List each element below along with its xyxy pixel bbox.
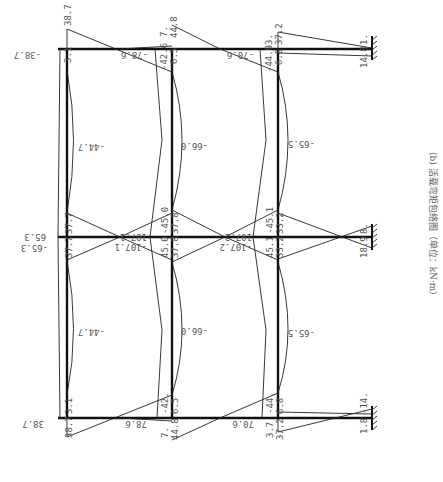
envelope-bottom	[67, 393, 372, 440]
fixed-support-icon	[372, 406, 377, 430]
label: -107.1	[114, 242, 147, 252]
label: 6.8	[275, 398, 285, 414]
moment-envelope-diagram: -38.7 38.7 3.1 -78.6 7. 44.8 -42.6 6.5 -…	[0, 0, 443, 482]
label: 6.8	[274, 49, 284, 65]
label: 8.	[359, 223, 369, 234]
label: 1.8	[359, 418, 369, 434]
label: 18.9	[359, 236, 369, 258]
label: 38.7	[64, 416, 74, 438]
label: -38.7	[14, 50, 41, 60]
label: -44.9	[264, 45, 274, 72]
label: -66.0	[181, 141, 208, 151]
label: 3.1	[64, 398, 74, 414]
fixed-support-icons	[372, 36, 377, 430]
label: -45.1	[265, 207, 275, 234]
label: 37.2	[275, 418, 285, 440]
label: 33.2	[275, 236, 285, 258]
label: -65.5	[288, 328, 315, 338]
label: 38.7	[63, 4, 73, 26]
label: 1.	[359, 34, 369, 45]
label: 65.3	[24, 232, 46, 242]
label: 37.2	[274, 23, 284, 45]
label: 37.7	[64, 212, 74, 234]
label: 107.1	[120, 232, 147, 242]
label: -42.6	[159, 43, 169, 70]
label: 78.6	[125, 419, 147, 429]
fixed-support-icon	[372, 36, 377, 60]
label: 33.2	[275, 212, 285, 234]
label: 6.5	[169, 48, 179, 64]
label: 3.7	[265, 422, 275, 438]
label: 45.0	[160, 236, 170, 258]
label: 44.8	[169, 16, 179, 38]
label: -45.0	[160, 207, 170, 234]
label: 45.1	[265, 236, 275, 258]
label: 37.7	[64, 236, 74, 258]
labels: -38.7 38.7 3.1 -78.6 7. 44.8 -42.6 6.5 -…	[14, 4, 439, 440]
label: 37.8	[170, 236, 180, 258]
label: 70.6	[232, 419, 254, 429]
label: 37.8	[170, 212, 180, 234]
label: -66.0	[181, 326, 208, 336]
label: 6.5	[170, 398, 180, 414]
label: -65.3	[21, 243, 48, 253]
frame	[58, 49, 372, 418]
figure-caption: (b) 活载弯矩包络图（单位：kN·m）	[428, 152, 439, 300]
label: 38.7	[22, 419, 44, 429]
label: -14.	[359, 392, 369, 414]
label: 7.	[160, 427, 170, 438]
label: -42.	[160, 392, 170, 414]
fixed-support-icon	[372, 224, 377, 250]
label: -78.6	[121, 50, 148, 60]
label: 7.	[159, 26, 169, 37]
label: -65.5	[288, 139, 315, 149]
label: 44.8	[170, 418, 180, 440]
label: -70.6	[227, 50, 254, 60]
label: -44.7	[78, 142, 105, 152]
label: -44.7	[78, 327, 105, 337]
label: 3.1	[63, 47, 73, 63]
label: 107.2	[225, 232, 252, 242]
label: -107.2	[219, 242, 252, 252]
label: -44.	[265, 392, 275, 414]
label: 3.	[264, 34, 274, 45]
label: 14.8	[359, 46, 369, 68]
